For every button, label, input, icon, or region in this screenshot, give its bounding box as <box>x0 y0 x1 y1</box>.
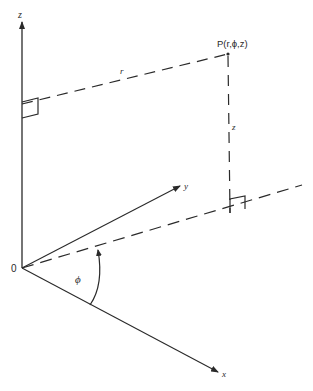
x-axis-label: x <box>221 369 226 379</box>
height-label: z <box>231 122 236 132</box>
point-p <box>226 52 229 55</box>
y-axis <box>22 186 180 268</box>
z-axis-label: z <box>17 9 22 20</box>
y-axis-label: y <box>183 181 188 191</box>
height-dashed-line <box>228 56 230 213</box>
cylindrical-coordinates-diagram: z y x 0 r z P(r,ϕ,z) ϕ <box>0 0 313 391</box>
right-angle-mark-foot <box>230 196 245 213</box>
origin-label: 0 <box>11 263 17 274</box>
phi-angle-arc <box>90 250 100 305</box>
phi-angle-label: ϕ <box>75 273 81 285</box>
radius-label: r <box>120 66 124 76</box>
x-axis <box>22 268 218 372</box>
radius-dashed-line <box>22 54 228 104</box>
point-p-label: P(r,ϕ,z) <box>217 38 248 49</box>
projection-dashed-line <box>22 185 302 268</box>
right-angle-mark-z <box>22 98 38 118</box>
